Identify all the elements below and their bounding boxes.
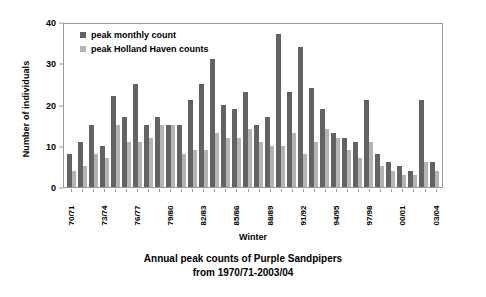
x-axis-ticks: 70/7173/7476/7779/8082/8385/8688/8991/92… [63, 189, 443, 233]
x-tick-mark [303, 189, 304, 192]
x-tick [308, 189, 319, 233]
bar-group [308, 24, 319, 187]
x-axis-title: Winter [63, 232, 443, 242]
x-tick-label: 88/89 [265, 205, 274, 225]
bar-peak-holland-haven-counts [435, 171, 440, 188]
bar-peak-holland-haven-counts [149, 138, 154, 188]
x-tick [154, 189, 165, 233]
bar-peak-holland-haven-counts [248, 129, 253, 187]
x-tick [176, 189, 187, 233]
x-tick: 76/77 [131, 189, 142, 233]
bar-peak-holland-haven-counts [358, 158, 363, 187]
bar-peak-holland-haven-counts [72, 171, 77, 188]
x-tick-label: 70/71 [66, 205, 75, 225]
x-tick-mark [314, 189, 315, 192]
bar-peak-holland-haven-counts [204, 150, 209, 187]
legend-swatch-icon [80, 46, 86, 52]
x-tick-mark [126, 189, 127, 192]
bar-peak-holland-haven-counts [182, 154, 187, 187]
bar-peak-holland-haven-counts [127, 142, 132, 187]
x-tick-mark [425, 189, 426, 192]
x-tick-mark [236, 189, 237, 192]
x-tick-label: 73/74 [99, 205, 108, 225]
x-tick-mark [336, 189, 337, 192]
x-tick-mark [71, 189, 72, 192]
x-tick: 00/01 [397, 189, 408, 233]
x-tick-label: 00/01 [398, 205, 407, 225]
bar-group [253, 24, 264, 187]
bar-peak-holland-haven-counts [259, 142, 264, 187]
x-tick-mark [402, 189, 403, 192]
x-tick-mark [225, 189, 226, 192]
x-tick-mark [281, 189, 282, 192]
x-tick-mark [104, 189, 105, 192]
bar-peak-holland-haven-counts [94, 154, 99, 187]
x-tick-label: 03/04 [431, 205, 440, 225]
x-tick-mark [192, 189, 193, 192]
x-tick [109, 189, 120, 233]
bar-peak-holland-haven-counts [116, 125, 121, 187]
x-tick-mark [137, 189, 138, 192]
x-tick-mark [148, 189, 149, 192]
x-tick-mark [413, 189, 414, 192]
x-tick-mark [347, 189, 348, 192]
x-tick: 82/83 [198, 189, 209, 233]
bar-peak-holland-haven-counts [215, 133, 220, 187]
x-tick [142, 189, 153, 233]
bar-peak-holland-haven-counts [336, 138, 341, 188]
x-tick [419, 189, 430, 233]
x-tick: 91/92 [297, 189, 308, 233]
x-tick-mark [214, 189, 215, 192]
x-tick: 79/80 [165, 189, 176, 233]
bar-peak-holland-haven-counts [325, 129, 330, 187]
legend-item-peak-holland-haven-counts: peak Holland Haven counts [80, 44, 209, 54]
bar-group [341, 24, 352, 187]
y-tick-label: 40 [46, 18, 56, 28]
x-tick: 03/04 [430, 189, 441, 233]
x-tick [87, 189, 98, 233]
chart-figure: Number of individuals 010203040 peak mon… [0, 0, 486, 297]
y-tick-label: 20 [46, 101, 56, 111]
x-tick [375, 189, 386, 233]
x-tick-label: 97/98 [365, 205, 374, 225]
bar-peak-holland-haven-counts [292, 133, 297, 187]
bar-group [264, 24, 275, 187]
x-tick: 85/86 [231, 189, 242, 233]
x-tick [275, 189, 286, 233]
y-tick-label: 30 [46, 59, 56, 69]
x-tick-mark [325, 189, 326, 192]
bar-peak-holland-haven-counts [171, 125, 176, 187]
bar-peak-holland-haven-counts [160, 125, 165, 187]
plot-area: peak monthly count peak Holland Haven co… [63, 23, 443, 188]
bar-group [363, 24, 374, 187]
x-tick-label: 91/92 [298, 205, 307, 225]
bar-group [66, 24, 77, 187]
x-tick-mark [358, 189, 359, 192]
bar-peak-holland-haven-counts [193, 150, 198, 187]
x-tick-mark [203, 189, 204, 192]
bar-peak-holland-haven-counts [138, 142, 143, 187]
legend-swatch-icon [80, 32, 86, 38]
bar-peak-holland-haven-counts [413, 175, 418, 187]
chart-caption: Annual peak counts of Purple Sandpipers … [0, 252, 486, 280]
bar-peak-holland-haven-counts [237, 138, 242, 188]
y-tick-label: 0 [51, 183, 56, 193]
bar-peak-holland-haven-counts [270, 146, 275, 187]
x-tick-mark [159, 189, 160, 192]
bar-group [396, 24, 407, 187]
x-tick [286, 189, 297, 233]
bar-group [286, 24, 297, 187]
bar-peak-holland-haven-counts [402, 175, 407, 187]
x-tick-mark [380, 189, 381, 192]
x-tick [209, 189, 220, 233]
x-tick-label: 85/86 [232, 205, 241, 225]
x-tick: 70/71 [65, 189, 76, 233]
y-tick-label: 10 [46, 142, 56, 152]
bar-peak-holland-haven-counts [281, 146, 286, 187]
bar-group [429, 24, 440, 187]
x-tick-mark [93, 189, 94, 192]
x-tick [353, 189, 364, 233]
x-tick-mark [248, 189, 249, 192]
x-tick [408, 189, 419, 233]
x-tick [187, 189, 198, 233]
